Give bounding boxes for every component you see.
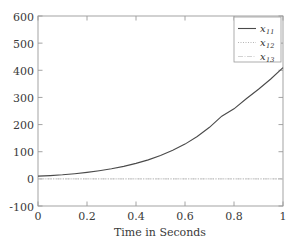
legend-sub-x12: 12	[266, 42, 274, 50]
y-tick-label: 300	[13, 92, 34, 105]
x-tick-label: 0.4	[127, 210, 145, 223]
x-tick-labels: 0 0.2 0.4 0.6 0.8 1	[35, 210, 287, 223]
y-tick-label: -100	[9, 201, 34, 214]
legend-sub-x13: 13	[266, 56, 274, 64]
x-tick-label: 0.6	[176, 210, 194, 223]
y-tick-label: 100	[13, 146, 34, 159]
x-tick-label: 0.2	[78, 210, 96, 223]
x-tick-label: 0	[35, 210, 42, 223]
y-tick-label: 600	[13, 11, 34, 24]
x-tick-label: 1	[280, 210, 287, 223]
plot-canvas: 600 500 400 300 200 100 0 -100 0 0.2 0.4…	[0, 0, 297, 243]
legend[interactable]: x 11 x 12 x 13	[234, 17, 281, 64]
x-axis-label: Time in Seconds	[114, 226, 206, 239]
y-tick-label: 200	[13, 119, 34, 132]
chart-figure: 600 500 400 300 200 100 0 -100 0 0.2 0.4…	[0, 0, 297, 243]
y-tick-labels: 600 500 400 300 200 100 0 -100	[9, 11, 34, 214]
y-tick-label: 400	[13, 65, 34, 78]
y-tick-label: 500	[13, 38, 34, 51]
y-tick-label: 0	[27, 173, 34, 186]
x-tick-label: 0.8	[225, 210, 243, 223]
legend-sub-x11: 11	[266, 28, 274, 36]
